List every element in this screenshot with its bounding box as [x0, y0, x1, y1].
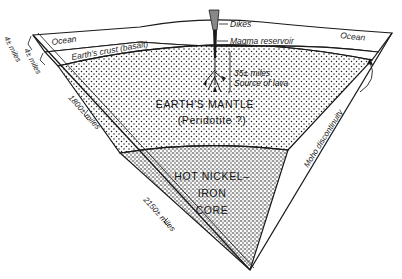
- ocean-depth-label: 4± miles: [2, 35, 23, 64]
- core-title-line2: IRON: [198, 187, 227, 199]
- crust-depth-label: 4± miles: [22, 47, 43, 76]
- dikes-label: Dikes: [230, 19, 252, 29]
- lava-source-label: Source of lava: [234, 78, 289, 88]
- core-title-line1: HOT NICKEL–: [174, 170, 249, 182]
- core-depth-label: 2150± miles: [141, 195, 177, 234]
- lava-depth-label: 35± miles: [234, 68, 271, 78]
- earth-cross-section-diagram: Ocean Ocean Earth's crust (basalt) Dikes…: [0, 0, 402, 279]
- magma-reservoir-label: Magma reservoir: [230, 36, 295, 46]
- mantle-title: EARTH'S MANTLE: [156, 98, 254, 110]
- core-title-line3: CORE: [196, 204, 229, 216]
- mantle-subtitle: (Peridotite ?): [178, 114, 247, 126]
- crust-depth-brace: [40, 53, 45, 65]
